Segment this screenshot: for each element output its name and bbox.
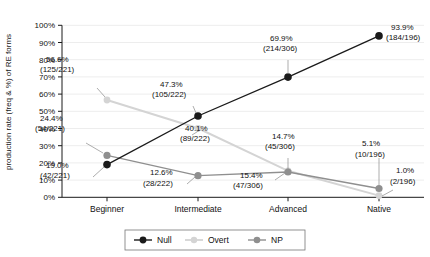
x-tick-marks	[107, 197, 379, 201]
legend-label-np[interactable]: NP	[271, 235, 283, 245]
annotation-np-beginner-frac: (54/221)	[35, 124, 65, 133]
annotation-overt-advanced-frac: (47/306)	[233, 181, 263, 190]
point-overt-beginner	[104, 97, 111, 104]
x-cat-beginner: Beginner	[90, 204, 124, 214]
annotation-null-native-pct: 93.9%	[391, 23, 414, 32]
annotation-np-advanced-frac: (45/306)	[265, 142, 295, 151]
point-null-advanced	[284, 73, 292, 81]
annotation-overt-beginner-frac: (125/221)	[40, 65, 75, 74]
annotation-np-intermediate-pct: 12.6%	[150, 168, 173, 177]
legend-marker-null	[140, 237, 147, 244]
chart-container: production rate (freq & %) of RE forms 1…	[0, 0, 430, 257]
point-null-native	[375, 32, 383, 40]
annotations: 56.6% (125/221) 24.4% (54/221) 19.0% (42…	[35, 23, 421, 190]
point-overt-native	[376, 192, 383, 199]
annotation-null-beginner-frac: (42/221)	[40, 171, 70, 180]
point-np-native	[375, 185, 382, 192]
annotation-np-intermediate-frac: (28/222)	[143, 179, 173, 188]
line-chart: production rate (freq & %) of RE forms 1…	[0, 0, 430, 257]
x-cat-native: Native	[367, 204, 391, 214]
point-np-intermediate	[194, 172, 201, 179]
x-axis-categories: Beginner Intermediate Advanced Native	[90, 204, 391, 214]
y-tick-0: 0%	[43, 193, 55, 202]
y-tick-100: 100%	[35, 21, 55, 30]
annotation-null-intermediate-frac: (105/222)	[152, 90, 187, 99]
annotation-np-beginner-pct: 24.4%	[40, 114, 63, 123]
annotation-null-intermediate-pct: 47.3%	[160, 80, 183, 89]
legend-label-null[interactable]: Null	[157, 235, 172, 245]
x-cat-intermediate: Intermediate	[174, 204, 222, 214]
series-null	[103, 32, 383, 168]
annotation-np-native-pct: 5.1%	[362, 139, 380, 148]
point-null-beginner	[103, 161, 111, 169]
annotation-overt-intermediate-pct: 40.1%	[185, 124, 208, 133]
legend-label-overt[interactable]: Overt	[208, 235, 229, 245]
point-np-advanced	[284, 168, 291, 175]
annotation-null-native-frac: (184/196)	[386, 33, 421, 42]
point-null-intermediate	[194, 112, 202, 120]
x-cat-advanced: Advanced	[269, 204, 307, 214]
annotation-np-native-frac: (10/196)	[355, 150, 385, 159]
legend-marker-np	[254, 237, 261, 244]
annotation-np-advanced-pct: 14.7%	[272, 132, 295, 141]
y-tick-60: 60%	[39, 90, 55, 99]
annotation-null-advanced-pct: 69.9%	[270, 34, 293, 43]
y-tick-30: 30%	[39, 142, 55, 151]
annotation-overt-native-pct: 1.0%	[396, 166, 414, 175]
point-np-beginner	[103, 152, 110, 159]
y-tick-90: 90%	[39, 39, 55, 48]
annotation-null-advanced-frac: (214/306)	[263, 44, 298, 53]
annotation-overt-native-frac: (2/196)	[390, 177, 416, 186]
annotation-null-beginner-pct: 19.0%	[46, 161, 69, 170]
annotation-overt-advanced-pct: 15.4%	[240, 171, 263, 180]
annotation-overt-intermediate-frac: (89/222)	[180, 134, 210, 143]
legend: Null Overt NP	[125, 230, 305, 250]
y-axis-label: production rate (freq & %) of RE forms	[4, 34, 13, 170]
legend-marker-overt	[191, 237, 197, 243]
y-tick-70: 70%	[39, 73, 55, 82]
annotation-overt-beginner-pct: 56.6%	[46, 55, 69, 64]
